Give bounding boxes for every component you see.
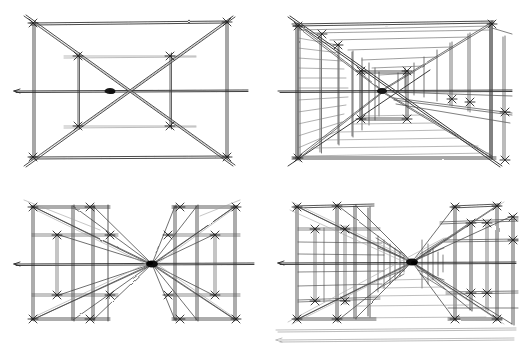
perspective-sketches-svg: One-point perspective construction studi…: [0, 0, 528, 350]
vanishing-point-top-left: [105, 88, 116, 94]
vanishing-point-bottom-right: [406, 259, 418, 266]
vanishing-point-bottom-left: [146, 261, 158, 268]
vanishing-point-top-right: [377, 88, 387, 94]
paper-background: [0, 0, 528, 350]
sketch-sheet: One-point perspective construction studi…: [0, 0, 528, 350]
